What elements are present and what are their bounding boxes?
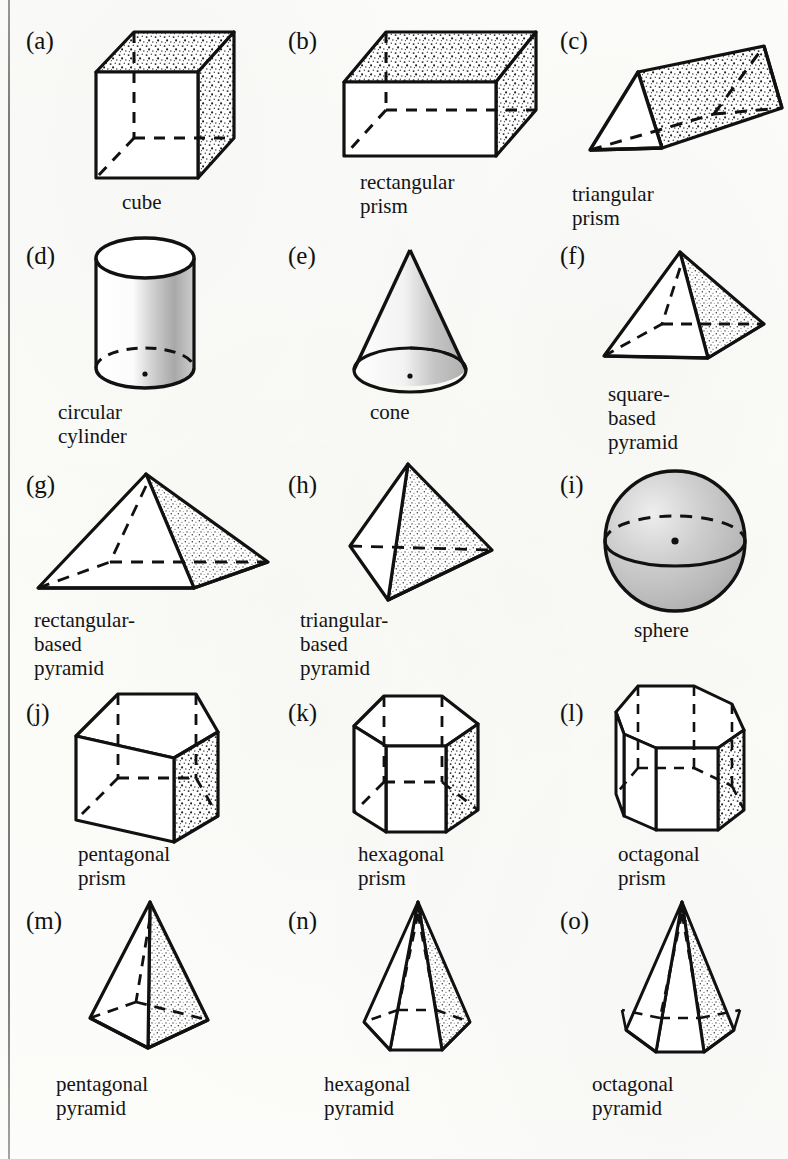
cylinder-drawing [90,236,200,396]
caption-cone: cone [370,400,410,424]
item-tag-f: (f) [560,243,585,268]
caption-pentagonal-pyramid: pentagonal pyramid [56,1072,148,1120]
item-tag-h: (h) [288,472,317,497]
caption-pentagonal-prism: pentagonal prism [78,842,170,890]
pentagonal-prism-drawing [70,690,225,845]
hexagonal-prism-drawing [350,690,485,845]
caption-square-pyramid: square-based pyramid [608,382,678,454]
octagonal-pyramid-drawing [608,898,758,1073]
item-tag-i: (i) [560,472,584,497]
caption-octagonal-pyramid: octagonal pyramid [592,1072,674,1120]
caption-triangular-prism: triangular prism [572,182,654,230]
item-tag-l: (l) [560,700,584,725]
hexagonal-pyramid-drawing [350,898,490,1073]
rectangular-prism-drawing [340,24,560,174]
caption-rectangular-prism: rectangular prism [360,170,454,218]
caption-hexagonal-prism: hexagonal prism [358,842,444,890]
item-tag-j: (j) [26,700,50,725]
octagonal-prism-drawing [610,682,750,847]
item-tag-k: (k) [288,700,317,725]
item-tag-c: (c) [560,28,588,53]
square-pyramid-drawing [596,248,776,378]
sphere-drawing [600,466,750,616]
pentagonal-pyramid-drawing [72,898,232,1073]
item-tag-n: (n) [288,908,317,933]
triangular-prism-drawing [586,40,786,170]
page-left-rule [8,0,10,1159]
tetrahedron-drawing [346,462,506,617]
caption-cube: cube [122,190,162,214]
item-tag-b: (b) [288,28,317,53]
caption-rectangular-pyramid: rectangular-based pyramid [34,608,135,680]
caption-tetrahedron: triangular-based pyramid [300,608,388,680]
item-tag-a: (a) [26,28,54,53]
item-tag-e: (e) [288,243,316,268]
caption-cylinder: circular cylinder [58,400,127,448]
rectangular-pyramid-drawing [30,470,280,600]
item-tag-d: (d) [26,243,55,268]
caption-sphere: sphere [634,618,689,642]
cube-drawing [82,26,242,186]
item-tag-m: (m) [26,908,62,933]
item-tag-o: (o) [560,908,589,933]
caption-octagonal-prism: octagonal prism [618,842,700,890]
figure-page: (a) cube (b) [0,0,788,1159]
cone-drawing [340,246,480,396]
caption-hexagonal-pyramid: hexagonal pyramid [324,1072,410,1120]
